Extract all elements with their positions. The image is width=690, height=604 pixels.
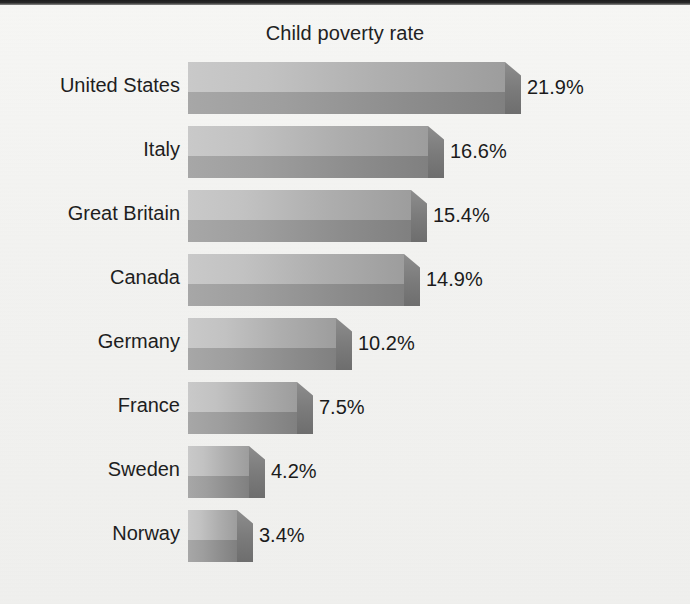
scan-edge-top bbox=[0, 0, 690, 5]
bar bbox=[188, 126, 428, 178]
bar-chart-plot-area: United States21.9%Italy16.6%Great Britai… bbox=[0, 62, 690, 562]
bar-value-label: 7.5% bbox=[319, 396, 365, 419]
bar-face-lower bbox=[188, 540, 237, 562]
bar-face-upper bbox=[188, 446, 249, 476]
bar-value-label: 21.9% bbox=[527, 76, 584, 99]
bar-bevel-cap bbox=[336, 318, 352, 370]
bar-bevel-cap bbox=[428, 126, 444, 178]
bar-face-upper bbox=[188, 254, 404, 284]
chart-title: Child poverty rate bbox=[0, 22, 690, 45]
bar-category-label: Great Britain bbox=[0, 202, 180, 225]
bar-category-label: France bbox=[0, 394, 180, 417]
bar-face-lower bbox=[188, 476, 249, 498]
bar-face-upper bbox=[188, 126, 428, 156]
bar bbox=[188, 446, 249, 498]
bar-row: Germany10.2% bbox=[0, 318, 690, 374]
bar-row: Canada14.9% bbox=[0, 254, 690, 310]
bar-row: Sweden4.2% bbox=[0, 446, 690, 502]
bar-value-label: 4.2% bbox=[271, 460, 317, 483]
bar-bevel-cap bbox=[411, 190, 427, 242]
bar-face-upper bbox=[188, 62, 505, 92]
bar-value-label: 10.2% bbox=[358, 332, 415, 355]
bar-face-upper bbox=[188, 510, 237, 540]
bar-row: Great Britain15.4% bbox=[0, 190, 690, 246]
bar-row: United States21.9% bbox=[0, 62, 690, 118]
bar-face-lower bbox=[188, 284, 404, 306]
bar-category-label: Canada bbox=[0, 266, 180, 289]
bar bbox=[188, 254, 404, 306]
bar-value-label: 14.9% bbox=[426, 268, 483, 291]
bar-face-upper bbox=[188, 382, 297, 412]
bar-value-label: 16.6% bbox=[450, 140, 507, 163]
bar-category-label: United States bbox=[0, 74, 180, 97]
bar-bevel-cap bbox=[505, 62, 521, 114]
bar-category-label: Italy bbox=[0, 138, 180, 161]
bar-value-label: 15.4% bbox=[433, 204, 490, 227]
bar bbox=[188, 382, 297, 434]
bar bbox=[188, 510, 237, 562]
bar-bevel-cap bbox=[297, 382, 313, 434]
bar-category-label: Germany bbox=[0, 330, 180, 353]
bar-row: France7.5% bbox=[0, 382, 690, 438]
bar-face-lower bbox=[188, 348, 336, 370]
bar-face-upper bbox=[188, 190, 411, 220]
bar-bevel-cap bbox=[404, 254, 420, 306]
bar bbox=[188, 190, 411, 242]
bar bbox=[188, 318, 336, 370]
bar-bevel-cap bbox=[237, 510, 253, 562]
bar-bevel-cap bbox=[249, 446, 265, 498]
bar-face-lower bbox=[188, 220, 411, 242]
bar-face-lower bbox=[188, 412, 297, 434]
bar-row: Italy16.6% bbox=[0, 126, 690, 182]
chart-page: Child poverty rate United States21.9%Ita… bbox=[0, 0, 690, 604]
bar bbox=[188, 62, 505, 114]
bar-category-label: Sweden bbox=[0, 458, 180, 481]
bar-row: Norway3.4% bbox=[0, 510, 690, 566]
bar-category-label: Norway bbox=[0, 522, 180, 545]
bar-face-upper bbox=[188, 318, 336, 348]
bar-face-lower bbox=[188, 92, 505, 114]
bar-face-lower bbox=[188, 156, 428, 178]
bar-value-label: 3.4% bbox=[259, 524, 305, 547]
